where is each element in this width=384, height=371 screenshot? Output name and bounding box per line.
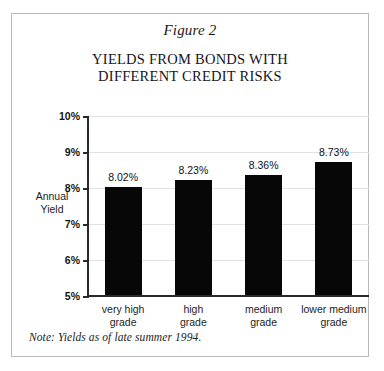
bar-group: 8.73%lower mediumgrade (315, 116, 352, 296)
bar-group: 8.23%highgrade (175, 116, 212, 296)
bar (175, 180, 212, 296)
figure-label: Figure 2 (12, 22, 368, 39)
x-tick-label: lower mediumgrade (292, 303, 376, 328)
bar-value-label: 8.23% (178, 164, 208, 176)
plot-area: 5%6%7%8%9%10% 8.02%very highgrade8.23%hi… (88, 116, 369, 296)
y-tick-label: 8% (65, 182, 80, 194)
bar (315, 162, 352, 296)
y-tick-label: 6% (65, 254, 80, 266)
bar-value-label: 8.36% (249, 159, 279, 171)
x-tick-label-line: grade (292, 316, 376, 329)
bar (245, 175, 282, 296)
bar-value-label: 8.73% (319, 146, 349, 158)
bar (105, 187, 142, 296)
y-tick-label: 7% (65, 218, 80, 230)
y-tick-label: 5% (65, 290, 80, 302)
y-tick-label: 10% (59, 110, 80, 122)
bar-group: 8.02%very highgrade (105, 116, 142, 296)
y-axis-line (87, 116, 89, 296)
chart-title-line-1: YIELDS FROM BONDS WITH (12, 51, 368, 68)
bar-value-label: 8.02% (108, 171, 138, 183)
x-axis-line (87, 295, 369, 297)
chart-note: Note: Yields as of late summer 1994. (29, 331, 201, 343)
figure-frame: Figure 2 YIELDS FROM BONDS WITH DIFFEREN… (11, 13, 369, 357)
chart-title: YIELDS FROM BONDS WITH DIFFERENT CREDIT … (12, 51, 368, 85)
x-tick-label-line: lower medium (292, 303, 376, 316)
chart-title-line-2: DIFFERENT CREDIT RISKS (12, 68, 368, 85)
y-tick-label: 9% (65, 146, 80, 158)
bar-group: 8.36%mediumgrade (245, 116, 282, 296)
y-axis-title-line-2: Yield (26, 203, 78, 216)
